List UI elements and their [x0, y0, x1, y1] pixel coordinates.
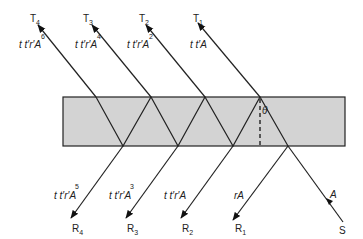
- source-label: S: [339, 225, 346, 236]
- transmitted-label-2: T2 t t′r′A 2: [127, 13, 153, 50]
- angle-theta-label: θ: [262, 105, 268, 116]
- svg-text:R4: R4: [72, 223, 83, 236]
- reflected-ray-1: [233, 146, 288, 220]
- svg-text:3: 3: [130, 183, 134, 190]
- svg-text:5: 5: [75, 183, 79, 190]
- svg-text:t t′r′A: t t′r′A: [127, 39, 149, 50]
- svg-text:R2: R2: [182, 223, 193, 236]
- svg-text:2: 2: [149, 33, 153, 40]
- svg-text:T3: T3: [83, 13, 93, 26]
- svg-text:t t′r′A: t t′r′A: [109, 190, 131, 201]
- incident-ray: [288, 146, 343, 222]
- transmitted-ray-4: [38, 25, 96, 97]
- source-amplitude: A: [329, 189, 337, 200]
- transmitted-label-4: T4 t t′r′A 6: [19, 13, 45, 50]
- interference-diagram: θ S A T1 t t′A T2 t t′r′A 2 T3 t t′r′A 4…: [0, 0, 363, 239]
- svg-text:R1: R1: [235, 223, 246, 236]
- reflected-label-4: t t′r′A 5 R4: [54, 183, 83, 236]
- reflected-label-1: rA R1: [234, 190, 246, 236]
- svg-text:T1: T1: [193, 13, 203, 26]
- svg-text:T4: T4: [30, 13, 40, 26]
- reflected-ray-4: [71, 146, 123, 218]
- svg-text:T2: T2: [139, 13, 149, 26]
- svg-text:4: 4: [97, 33, 101, 40]
- svg-text:t t′A: t t′A: [190, 39, 207, 50]
- svg-text:t t′r′A: t t′r′A: [54, 190, 76, 201]
- reflected-ray-2: [181, 146, 233, 218]
- reflected-label-2: t t′r′A R2: [164, 190, 193, 236]
- svg-text:R3: R3: [127, 223, 138, 236]
- svg-text:t t′r′A: t t′r′A: [164, 190, 186, 201]
- svg-text:rA: rA: [234, 190, 244, 201]
- svg-text:t t′r′A: t t′r′A: [75, 39, 97, 50]
- reflected-label-3: t t′r′A 3 R3: [109, 183, 138, 236]
- svg-text:6: 6: [41, 33, 45, 40]
- glass-plate: [63, 97, 345, 146]
- svg-text:t t′r′A: t t′r′A: [19, 39, 41, 50]
- reflected-ray-3: [126, 146, 178, 218]
- transmitted-ray-1: [198, 23, 260, 97]
- transmitted-ray-2: [146, 25, 205, 97]
